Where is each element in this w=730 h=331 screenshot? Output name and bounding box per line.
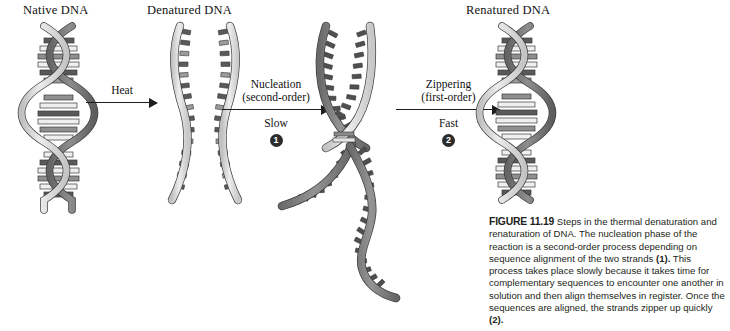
figure-caption: FIGURE 11.19 Steps in the thermal denatu… [489,216,725,327]
denatured-strand-left [172,26,195,200]
native-dna-helix [22,22,94,212]
step-badge-1: 1 [270,134,283,147]
arrow-heat: Heat [86,84,158,109]
step-badge-2: 2 [442,134,455,147]
figure-number: FIGURE 11.19 [489,216,554,227]
intermediate-arm-lower-left [282,144,352,206]
arrow-heat-line [86,97,158,109]
figure-caption-ref-2: (2). [489,314,503,325]
label-denatured-dna: Denatured DNA [147,3,232,18]
intermediate-arm-lower-right [350,146,396,298]
renatured-dna-helix [480,24,552,204]
label-native-dna: Native DNA [23,3,89,18]
nucleation-intermediate [300,22,465,327]
figure-caption-ref-1: (1). [656,253,670,264]
arrow-heat-label-line1: Heat [86,84,158,97]
figure-canvas: Native DNA Denatured DNA Renatured DNA [0,0,730,331]
label-renatured-dna: Renatured DNA [466,3,550,18]
